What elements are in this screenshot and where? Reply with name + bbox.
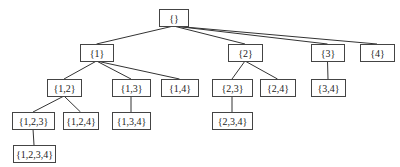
node-label: {}: [169, 13, 179, 24]
edge-n1-n13: [97, 61, 132, 79]
edge-root-n4: [174, 26, 378, 44]
subset-tree-diagram: {}{1}{2}{3}{4}{1,2}{1,3}{1,4}{2,3}{2,4}{…: [0, 0, 400, 167]
node-label: {2,4}: [267, 83, 289, 94]
node-label: {1,2,4}: [66, 116, 96, 127]
tree-node-n1234: {1,2,3,4}: [14, 146, 56, 163]
node-label: {2,3}: [221, 83, 243, 94]
node-label: {1,2}: [53, 83, 75, 94]
tree-node-n34: {3,4}: [312, 80, 346, 97]
node-label: {1}: [90, 48, 105, 59]
node-label: {1,4}: [169, 83, 191, 94]
tree-node-n234: {2,3,4}: [213, 113, 253, 130]
tree-node-n23: {2,3}: [213, 80, 253, 97]
tree-node-n1: {1}: [81, 45, 114, 62]
tree-node-root: {}: [160, 10, 189, 27]
tree-node-n12: {1,2}: [48, 80, 82, 97]
tree-node-n3: {3}: [312, 45, 345, 62]
edge-root-n3: [174, 26, 328, 44]
node-label: {1,2,3,4}: [16, 149, 53, 160]
edge-n1-n12: [64, 61, 97, 79]
node-label: {1,3,4}: [117, 116, 147, 127]
tree-node-n14: {1,4}: [162, 80, 199, 97]
edge-n12-n123: [33, 96, 64, 112]
tree-nodes: {}{1}{2}{3}{4}{1,2}{1,3}{1,4}{2,3}{2,4}{…: [13, 10, 395, 163]
node-label: {3,4}: [317, 83, 339, 94]
tree-node-n124: {1,2,4}: [64, 113, 99, 130]
edge-n3-n34: [328, 61, 329, 79]
edge-root-n1: [97, 26, 174, 44]
edge-n2-n23: [232, 61, 245, 79]
tree-node-n4: {4}: [361, 45, 395, 62]
node-label: {3}: [321, 48, 336, 59]
tree-node-n134: {1,3,4}: [113, 113, 151, 130]
tree-node-n123: {1,2,3}: [13, 113, 55, 130]
node-label: {4}: [370, 48, 385, 59]
node-label: {2}: [238, 48, 253, 59]
tree-node-n13: {1,3}: [113, 80, 151, 97]
edge-n123-n1234: [33, 129, 34, 145]
edge-n1-n14: [97, 61, 180, 79]
node-label: {1,3}: [120, 83, 142, 94]
tree-node-n24: {2,4}: [261, 80, 296, 97]
node-label: {1,2,3}: [19, 116, 49, 127]
edge-n12-n124: [64, 96, 81, 112]
tree-node-n2: {2}: [229, 45, 263, 62]
node-label: {2,3,4}: [218, 116, 248, 127]
edge-n2-n24: [245, 61, 278, 79]
